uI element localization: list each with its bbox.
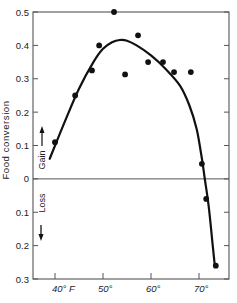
chart-canvas: 0.50.40.30.20.100.10.20.3 40° F50°60°70°… xyxy=(0,0,237,303)
loss-arrowhead-icon xyxy=(39,234,44,241)
data-point xyxy=(145,59,151,65)
y-tick-label: 0.2 xyxy=(16,107,29,118)
gain-indicator: Gain xyxy=(37,126,47,170)
x-axis: 40° F50°60°70° xyxy=(52,273,209,294)
y-tick-label: 0.3 xyxy=(16,73,29,84)
data-point xyxy=(89,68,95,74)
food-conversion-chart: 0.50.40.30.20.100.10.20.3 40° F50°60°70°… xyxy=(0,0,237,303)
data-point xyxy=(122,72,128,78)
data-point xyxy=(188,69,194,75)
y-tick-label: 0.1 xyxy=(16,140,29,151)
y-tick-label: 0.2 xyxy=(16,240,29,251)
x-tick-label: 40° F xyxy=(52,283,76,294)
data-point xyxy=(199,161,205,167)
data-point xyxy=(171,69,177,75)
y-axis: 0.50.40.30.20.100.10.20.3 xyxy=(16,7,229,285)
data-point xyxy=(52,139,58,145)
data-point xyxy=(160,59,166,65)
data-point xyxy=(96,42,102,48)
y-tick-label: 0 xyxy=(24,173,29,184)
gain-label: Gain xyxy=(37,150,47,169)
data-point xyxy=(111,9,117,15)
data-point xyxy=(203,196,209,202)
x-tick-label: 60° xyxy=(146,283,161,294)
loss-label: Loss xyxy=(37,193,47,213)
data-points xyxy=(52,9,219,268)
x-tick-label: 70° xyxy=(194,283,209,294)
y-axis-label: Food conversion xyxy=(0,100,11,179)
y-tick-label: 0.4 xyxy=(16,40,29,51)
y-tick-label: 0.1 xyxy=(16,207,29,218)
data-point xyxy=(72,93,78,99)
data-point xyxy=(135,32,141,38)
y-tick-label: 0.3 xyxy=(16,274,29,285)
y-tick-label: 0.5 xyxy=(16,7,29,18)
loss-indicator: Loss xyxy=(37,193,47,241)
x-tick-label: 50° xyxy=(98,283,113,294)
gain-arrowhead-icon xyxy=(40,126,45,133)
data-point xyxy=(213,263,219,269)
